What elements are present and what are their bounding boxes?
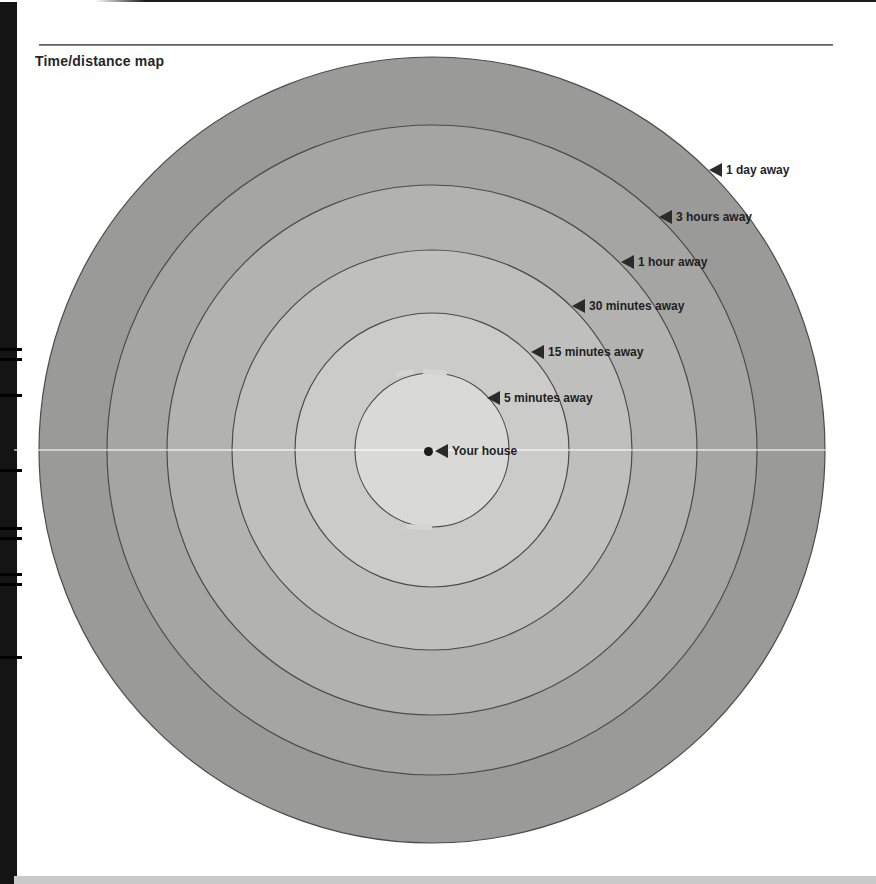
arrow-left-icon [659,210,672,224]
center-label: Your house [452,444,517,458]
ring-label-text: 1 hour away [638,255,707,269]
ring-label-15-minutes: 15 minutes away [531,344,643,360]
scanned-page: Time/distance map 1 day away3 hours away… [0,0,876,884]
arrow-left-icon [572,299,585,313]
ring-label-text: 1 day away [726,163,789,177]
house-dot-icon [424,447,433,456]
arrow-left-icon [531,345,544,359]
ring-label-30-minutes: 30 minutes away [572,298,684,314]
ring-label-text: 15 minutes away [548,345,643,359]
ring-label-text: 30 minutes away [589,299,684,313]
ring-label-3-hours: 3 hours away [659,209,752,225]
ring-label-1-hour: 1 hour away [621,254,707,270]
ring-label-1-day: 1 day away [709,162,789,178]
arrow-left-icon [709,163,722,177]
ring-label-text: 5 minutes away [504,391,593,405]
arrow-left-icon [487,391,500,405]
arrow-left-icon [435,444,448,458]
center-marker: Your house [424,443,517,459]
label-layer: 1 day away3 hours away1 hour away30 minu… [0,0,876,884]
ring-label-text: 3 hours away [676,210,752,224]
ring-label-5-minutes: 5 minutes away [487,390,593,406]
arrow-left-icon [621,255,634,269]
